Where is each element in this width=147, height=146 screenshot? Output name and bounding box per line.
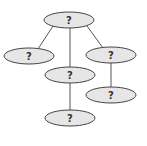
node-label: ? bbox=[67, 113, 73, 124]
node-label: ? bbox=[108, 50, 114, 61]
node-middle-child: ? bbox=[45, 110, 95, 126]
node-right-child: ? bbox=[86, 87, 136, 103]
edge-root-left bbox=[38, 26, 53, 49]
node-label: ? bbox=[67, 70, 73, 81]
node-label: ? bbox=[26, 51, 32, 62]
edge-root-right bbox=[87, 26, 103, 48]
node-label: ? bbox=[66, 15, 72, 26]
node-label: ? bbox=[108, 90, 114, 101]
node-right: ? bbox=[86, 47, 136, 63]
tree-diagram: ? ? ? ? ? ? bbox=[0, 0, 147, 146]
node-root: ? bbox=[44, 12, 94, 28]
node-middle: ? bbox=[45, 67, 95, 83]
node-left: ? bbox=[4, 48, 54, 64]
